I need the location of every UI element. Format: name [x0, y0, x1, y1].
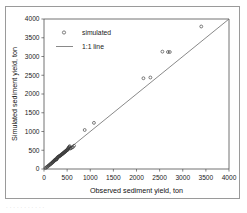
x-tick-label: 1500 — [106, 174, 121, 181]
y-tick-label: 2500 — [25, 72, 40, 79]
chart-frame: 05001000150020002500300035004000 0500100… — [5, 6, 240, 199]
legend-label-one-to-one: 1:1 line — [82, 43, 104, 50]
y-tick-label: 500 — [28, 147, 39, 154]
legend-label-simulated: simulated — [82, 29, 111, 36]
y-tick-label: 2000 — [25, 90, 40, 97]
x-tick-label: 500 — [62, 174, 73, 181]
y-axis-ticks: 05001000150020002500300035004000 — [25, 15, 44, 172]
x-tick-label: 2500 — [152, 174, 167, 181]
figure-container: 05001000150020002500300035004000 0500100… — [0, 0, 247, 213]
x-axis-ticks: 05001000150020002500300035004000 — [42, 169, 237, 181]
x-tick-label: 1000 — [83, 174, 98, 181]
x-tick-label: 4000 — [222, 174, 237, 181]
x-tick-label: 3500 — [199, 174, 214, 181]
y-tick-label: 4000 — [25, 15, 40, 22]
x-tick-label: 3000 — [175, 174, 190, 181]
x-tick-label: 2000 — [129, 174, 144, 181]
x-axis-title: Observed sediment yield, ton — [90, 186, 183, 195]
y-tick-label: 1000 — [25, 128, 40, 135]
y-tick-label: 3000 — [25, 53, 40, 60]
scatter-plot: 05001000150020002500300035004000 0500100… — [6, 7, 239, 198]
y-tick-label: 3500 — [25, 34, 40, 41]
y-axis-title: Simulated sediment yield, ton — [10, 47, 19, 141]
y-tick-label: 0 — [36, 165, 40, 172]
x-tick-label: 0 — [42, 174, 46, 181]
caption-fragment: · · · · · · · · · · · — [6, 203, 242, 212]
y-tick-label: 1500 — [25, 109, 40, 116]
